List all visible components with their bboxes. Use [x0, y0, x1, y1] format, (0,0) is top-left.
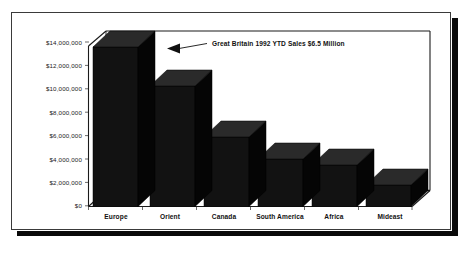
y-tick-label: $4,000,000 — [50, 156, 83, 163]
bar-canada[interactable] — [204, 121, 266, 207]
bar-front-face — [150, 86, 195, 207]
x-tick-label: Mideast — [377, 213, 403, 220]
annotation-label: Great Britain 1992 YTD Sales $6.5 Millio… — [212, 40, 345, 48]
annotation-arrowhead-icon — [167, 44, 180, 54]
x-tick-label: Orient — [160, 213, 181, 220]
bar-africa[interactable] — [312, 149, 374, 207]
x-tick-label: Europe — [104, 213, 128, 221]
y-tick-label: $2,000,000 — [50, 179, 83, 186]
bar-side-face — [195, 70, 212, 207]
bar-side-face — [138, 31, 155, 207]
y-tick-label: $12,000,000 — [46, 62, 82, 69]
bar-south-america[interactable] — [258, 143, 320, 207]
x-axis-tick-labels: Europe Orient Canada South America Afric… — [104, 213, 403, 221]
x-tick-label: South America — [256, 213, 304, 220]
bar-chart-3d[interactable]: $14,000,000 $12,000,000 $10,000,000 $8,0… — [0, 0, 475, 255]
y-tick-label: $0 — [75, 202, 83, 209]
chart-figure: $14,000,000 $12,000,000 $10,000,000 $8,0… — [0, 0, 475, 255]
annotation-leader-line — [179, 44, 207, 49]
y-tick-label: $8,000,000 — [50, 109, 83, 116]
y-tick-label: $6,000,000 — [50, 132, 83, 139]
bar-orient[interactable] — [150, 70, 212, 207]
bar-front-face — [93, 47, 138, 207]
y-axis-tick-labels: $14,000,000 $12,000,000 $10,000,000 $8,0… — [46, 39, 82, 210]
x-tick-label: Africa — [324, 213, 344, 220]
x-tick-label: Canada — [212, 213, 237, 220]
y-tick-label: $10,000,000 — [46, 85, 82, 92]
y-tick-label: $14,000,000 — [46, 39, 82, 46]
bar-europe[interactable] — [93, 31, 155, 207]
annotation-great-britain[interactable]: Great Britain 1992 YTD Sales $6.5 Millio… — [167, 40, 345, 53]
